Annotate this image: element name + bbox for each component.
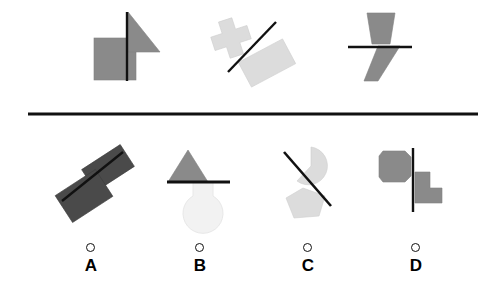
prompt-2-rotated-rectangle [238,39,295,87]
option-d-octagon [379,151,411,182]
option-a-figure[interactable] [55,145,134,223]
option-b-radio[interactable] [195,243,204,252]
option-a-label[interactable]: A [71,256,111,276]
option-a-radio[interactable] [86,243,95,252]
prompt-3-trapezoid [367,13,395,44]
prompt-panel-2 [207,14,296,87]
option-b-figure[interactable] [167,150,230,233]
option-c-figure[interactable] [284,147,331,218]
option-b-triangle [168,150,208,182]
option-b-rounded-blob [183,182,223,233]
option-d-figure[interactable] [379,148,442,212]
option-d-label[interactable]: D [396,256,436,276]
prompt-3-parallelogram [364,46,400,81]
puzzle-canvas [0,0,498,300]
option-d-radio[interactable] [411,243,420,252]
prompt-2-cross [207,14,255,62]
prompt-panel-3 [348,13,412,81]
prompt-1-right-triangle [128,12,160,52]
option-c-label[interactable]: C [288,256,328,276]
prompt-panel-1 [94,12,160,81]
option-c-pie-wedge [297,147,327,185]
option-c-radio[interactable] [303,243,312,252]
option-b-label[interactable]: B [180,256,220,276]
option-d-l-shape [415,172,442,203]
